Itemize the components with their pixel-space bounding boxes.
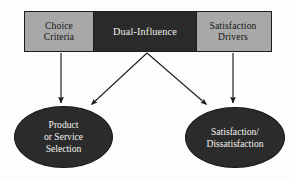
ellipse-product-or-service-selection-label: Product or Service Selection bbox=[40, 119, 87, 154]
box-choice-criteria: Choice Criteria bbox=[25, 12, 94, 51]
ellipse-product-or-service-selection: Product or Service Selection bbox=[14, 106, 113, 168]
dual-influence-diagram: Choice Criteria Dual-Influence Satisfact… bbox=[0, 0, 294, 180]
arrow-dual-influence-to-selection bbox=[92, 53, 148, 105]
box-satisfaction-drivers: Satisfaction Drivers bbox=[197, 12, 269, 51]
box-choice-criteria-label: Choice Criteria bbox=[44, 21, 75, 42]
ellipse-satisfaction-dissatisfaction: Satisfaction/ Dissatisfaction bbox=[185, 107, 285, 168]
box-dual-influence-label: Dual-Influence bbox=[113, 26, 177, 37]
arrow-dual-influence-to-satisfaction bbox=[147, 53, 207, 105]
box-satisfaction-drivers-label: Satisfaction Drivers bbox=[209, 21, 256, 42]
box-dual-influence: Dual-Influence bbox=[94, 12, 197, 51]
ellipse-satisfaction-dissatisfaction-label: Satisfaction/ Dissatisfaction bbox=[202, 126, 267, 149]
top-bar: Choice Criteria Dual-Influence Satisfact… bbox=[24, 11, 272, 52]
